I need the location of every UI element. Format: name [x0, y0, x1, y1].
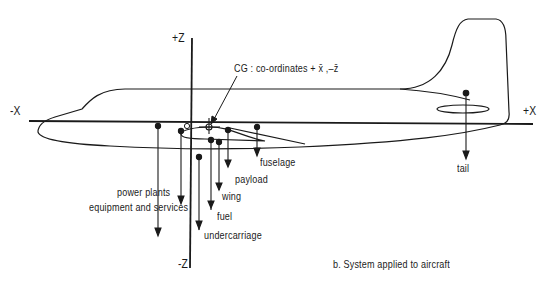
- payload-label: payload: [235, 173, 268, 185]
- wing-chord-line: [230, 128, 305, 144]
- wing-label: wing: [222, 190, 241, 202]
- fuel-label: fuel: [217, 210, 232, 222]
- plus-x-label: +X: [523, 105, 536, 117]
- equipment-arrow: [178, 128, 184, 204]
- fuselage-label: fuselage: [260, 156, 296, 168]
- minus-z-label: -Z: [178, 258, 188, 270]
- undercarriage-arrow: [196, 154, 202, 230]
- tailplane-section: [437, 105, 489, 113]
- figure-caption: b. System applied to aircraft: [333, 258, 450, 270]
- aircraft-diagram: [0, 0, 551, 283]
- undercarriage-label: undercarriage: [204, 229, 262, 241]
- equipment-and-services-label: equipment and services: [89, 201, 188, 213]
- cg-label: CG : co-ordinates + x̄ ,–z̄: [234, 62, 338, 74]
- power-plants-label: power plants: [117, 186, 170, 198]
- minus-x-label: -X: [10, 105, 21, 117]
- cg-symbol: [199, 118, 220, 134]
- tail-fairing: [400, 89, 470, 100]
- fuselage-outline: [38, 19, 509, 149]
- wing-arrow: [216, 139, 222, 190]
- plus-z-label: +Z: [172, 32, 185, 44]
- cg-leader-arrow: [211, 76, 237, 124]
- origin-marker: [184, 123, 189, 128]
- z-axis: [190, 38, 192, 268]
- x-axis: [29, 121, 533, 124]
- tail-arrow: [463, 90, 469, 159]
- power-plants-arrow: [155, 123, 161, 236]
- payload-arrow: [225, 127, 231, 167]
- tail-label: tail: [457, 162, 469, 174]
- wing-section: [181, 127, 265, 141]
